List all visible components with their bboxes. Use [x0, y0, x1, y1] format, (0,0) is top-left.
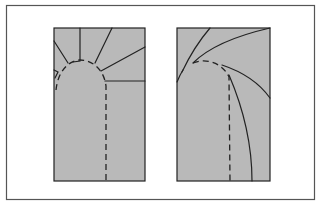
left-panel	[54, 28, 145, 181]
diagram-figure	[0, 0, 321, 205]
right-panel	[177, 28, 270, 181]
diagram-canvas	[0, 0, 321, 205]
right-panel-background	[177, 28, 270, 181]
left-panel-background	[54, 28, 145, 181]
